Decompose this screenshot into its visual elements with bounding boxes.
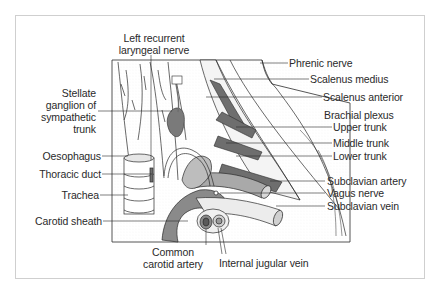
label-line: Left recurrent — [106, 32, 202, 44]
label-lower-trunk: Lower trunk — [333, 150, 387, 162]
label-line: Common — [140, 246, 206, 258]
label-carotid-sheath: Carotid sheath — [10, 215, 102, 227]
label-line: trunk — [20, 123, 96, 135]
label-thoracic-duct: Thoracic duct — [10, 168, 101, 180]
carotid-sheath-icon — [197, 209, 229, 233]
label-upper-trunk: Upper trunk — [333, 121, 387, 133]
label-line: sympathetic — [20, 111, 96, 123]
label-line: laryngeal nerve — [106, 44, 202, 56]
label-subclavian-artery: Subclavian artery — [327, 175, 406, 187]
oesophagus-trachea-icon — [124, 154, 154, 214]
label-oesophagus: Oesophagus — [10, 150, 101, 162]
label-stellate-ganglion: Stellate ganglion of sympathetic trunk — [20, 87, 96, 135]
label-trachea: Trachea — [10, 189, 99, 201]
label-line: ganglion of — [20, 99, 96, 111]
label-subclavian-vein: Subclavian vein — [327, 200, 399, 212]
label-internal-jugular-vein: Internal jugular vein — [219, 257, 309, 269]
label-vagus-nerve: Vagus nerve — [327, 187, 384, 199]
label-common-carotid-artery: Common carotid artery — [140, 246, 206, 270]
label-brachial-plexus: Brachial plexus — [324, 109, 394, 121]
label-line: Stellate — [20, 87, 96, 99]
label-middle-trunk: Middle trunk — [333, 137, 389, 149]
label-scalenus-medius: Scalenus medius — [310, 73, 388, 85]
label-left-recurrent-laryngeal-nerve: Left recurrent laryngeal nerve — [106, 32, 202, 56]
label-phrenic-nerve: Phrenic nerve — [289, 57, 352, 69]
label-scalenus-anterior: Scalenus anterior — [323, 91, 403, 103]
label-line: carotid artery — [140, 258, 206, 270]
